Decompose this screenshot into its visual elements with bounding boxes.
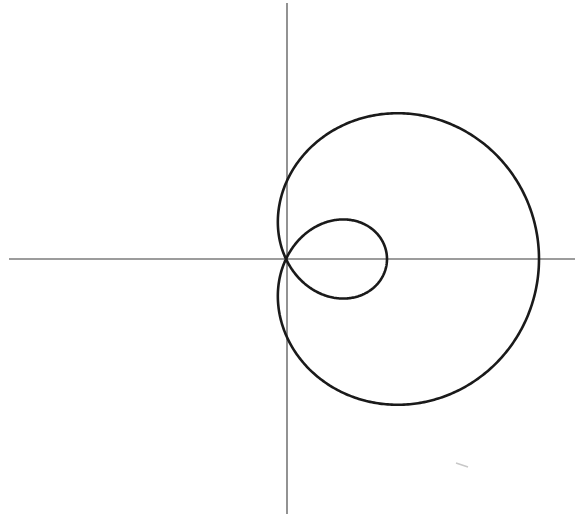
limacon-plot [0,0,577,522]
smudge-mark [456,463,468,467]
diagram-canvas [0,0,577,522]
